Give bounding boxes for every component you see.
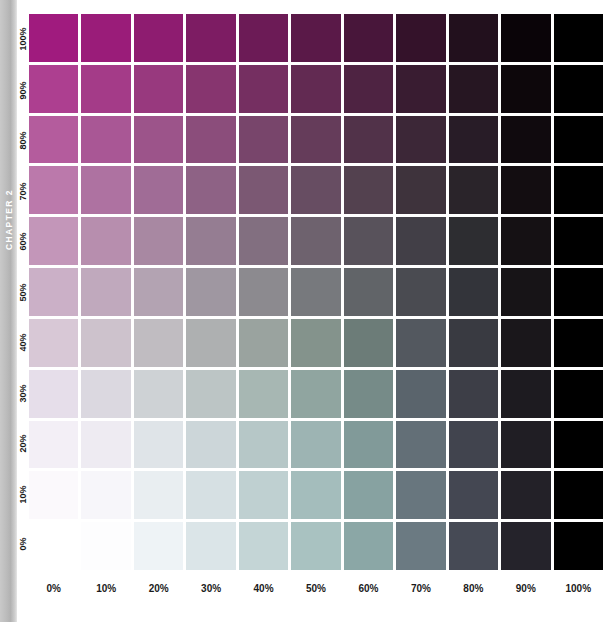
color-swatch xyxy=(81,116,130,164)
color-swatch xyxy=(396,268,445,316)
color-swatch xyxy=(501,471,550,519)
color-swatch xyxy=(29,217,78,265)
color-swatch xyxy=(134,471,183,519)
color-swatch xyxy=(291,65,340,113)
color-swatch xyxy=(396,217,445,265)
color-swatch xyxy=(396,166,445,214)
chapter-rail: CHAPTER 2 xyxy=(0,0,17,622)
color-swatch xyxy=(344,370,393,418)
color-swatch xyxy=(344,421,393,469)
y-axis-tick: 20% xyxy=(17,418,29,469)
color-swatch xyxy=(239,522,288,570)
color-swatch xyxy=(396,471,445,519)
color-swatch xyxy=(134,319,183,367)
y-axis-tick: 80% xyxy=(17,115,29,166)
y-axis-tick: 70% xyxy=(17,166,29,217)
color-swatch xyxy=(501,370,550,418)
color-swatch xyxy=(186,522,235,570)
color-swatch xyxy=(344,268,393,316)
color-swatch xyxy=(291,166,340,214)
color-swatch xyxy=(554,421,603,469)
color-swatch xyxy=(501,14,550,62)
color-swatch xyxy=(344,65,393,113)
color-swatch xyxy=(81,370,130,418)
y-axis-tick: 100% xyxy=(17,14,29,65)
color-swatch xyxy=(396,522,445,570)
color-swatch xyxy=(449,319,498,367)
color-swatch xyxy=(81,319,130,367)
color-swatch xyxy=(554,471,603,519)
color-swatch xyxy=(29,319,78,367)
color-swatch xyxy=(554,116,603,164)
color-swatch xyxy=(554,65,603,113)
color-swatch xyxy=(501,268,550,316)
color-swatch xyxy=(449,166,498,214)
color-swatch xyxy=(344,471,393,519)
color-swatch xyxy=(344,217,393,265)
color-swatch xyxy=(134,166,183,214)
color-swatch xyxy=(134,65,183,113)
y-axis-tick: 50% xyxy=(17,267,29,318)
color-swatch xyxy=(81,217,130,265)
color-swatch xyxy=(186,14,235,62)
x-axis-tick: 80% xyxy=(449,578,498,598)
color-swatch xyxy=(239,370,288,418)
color-swatch xyxy=(186,217,235,265)
chapter-rail-label: CHAPTER 2 xyxy=(0,160,17,280)
y-axis-tick: 40% xyxy=(17,317,29,368)
color-swatch xyxy=(186,65,235,113)
color-swatch xyxy=(501,116,550,164)
color-swatch xyxy=(239,319,288,367)
color-swatch xyxy=(344,166,393,214)
color-swatch xyxy=(501,65,550,113)
color-swatch xyxy=(29,522,78,570)
x-axis-tick: 40% xyxy=(239,578,288,598)
y-axis-magenta-percent: 100%90%80%70%60%50%40%30%20%10%0% xyxy=(17,14,29,570)
color-swatch xyxy=(239,421,288,469)
color-swatch xyxy=(291,116,340,164)
color-swatch xyxy=(344,522,393,570)
color-swatch xyxy=(291,471,340,519)
color-swatch xyxy=(186,268,235,316)
color-swatch-grid xyxy=(29,14,603,570)
x-axis-tick: 60% xyxy=(344,578,393,598)
color-swatch xyxy=(81,65,130,113)
x-axis-tick: 50% xyxy=(291,578,340,598)
color-swatch xyxy=(29,65,78,113)
color-swatch xyxy=(344,14,393,62)
color-swatch xyxy=(186,166,235,214)
x-axis-tick: 0% xyxy=(29,578,78,598)
color-swatch xyxy=(554,268,603,316)
color-swatch xyxy=(396,319,445,367)
x-axis-tick: 20% xyxy=(134,578,183,598)
color-swatch xyxy=(29,421,78,469)
x-axis-tick: 70% xyxy=(396,578,445,598)
color-swatch xyxy=(291,14,340,62)
color-swatch xyxy=(81,421,130,469)
color-swatch xyxy=(186,319,235,367)
y-axis-tick: 10% xyxy=(17,469,29,520)
color-swatch xyxy=(449,116,498,164)
color-swatch xyxy=(29,471,78,519)
color-swatch xyxy=(291,319,340,367)
color-swatch xyxy=(81,166,130,214)
y-axis-tick: 0% xyxy=(17,519,29,570)
color-swatch xyxy=(554,217,603,265)
color-swatch xyxy=(29,14,78,62)
color-swatch xyxy=(291,370,340,418)
y-axis-tick: 60% xyxy=(17,216,29,267)
x-axis-black-percent: 0%10%20%30%40%50%60%70%80%90%100% xyxy=(29,578,603,598)
color-swatch xyxy=(29,268,78,316)
color-swatch xyxy=(554,370,603,418)
color-swatch xyxy=(501,421,550,469)
color-swatch xyxy=(396,116,445,164)
color-swatch xyxy=(29,370,78,418)
color-swatch xyxy=(239,217,288,265)
color-swatch xyxy=(291,217,340,265)
color-swatch xyxy=(501,522,550,570)
color-swatch xyxy=(186,116,235,164)
color-swatch xyxy=(554,319,603,367)
color-swatch xyxy=(501,166,550,214)
color-swatch xyxy=(239,14,288,62)
color-swatch xyxy=(239,166,288,214)
